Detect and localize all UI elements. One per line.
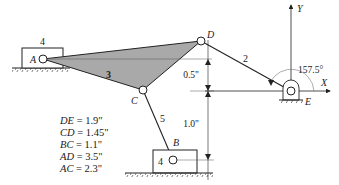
joint-A bbox=[39, 55, 47, 63]
rod-label: 5 bbox=[160, 113, 165, 124]
dimension-upper-label: 0.5" bbox=[183, 70, 199, 80]
bottom-slider-ground bbox=[125, 173, 213, 177]
crank-label: 2 bbox=[243, 53, 248, 64]
length-row: DE = 1.9" bbox=[60, 115, 108, 127]
joint-C bbox=[139, 86, 147, 94]
joint-label-A: A bbox=[29, 54, 37, 65]
dimension-lower-label: 1.0" bbox=[183, 119, 199, 129]
x-axis-label: X bbox=[320, 77, 328, 88]
mechanism-diagram: 4 3 2 5 4 0.5" 1.0" Y X 157.5° bbox=[0, 0, 339, 185]
length-row: AC = 2.3" bbox=[60, 163, 108, 175]
angle-arc-arrow bbox=[268, 80, 274, 86]
joint-D bbox=[197, 37, 205, 45]
coupler-link-3 bbox=[43, 41, 201, 90]
joint-label-C: C bbox=[131, 95, 138, 106]
joint-label-D: D bbox=[206, 29, 215, 40]
length-row: BC = 1.1" bbox=[60, 139, 108, 151]
link-lengths-legend: DE = 1.9" CD = 1.45" BC = 1.1" AD = 3.5"… bbox=[60, 115, 108, 175]
length-row: CD = 1.45" bbox=[60, 127, 108, 139]
y-axis-label: Y bbox=[297, 3, 304, 14]
joint-label-E: E bbox=[304, 96, 311, 107]
length-row: AD = 3.5" bbox=[60, 151, 108, 163]
joint-B bbox=[169, 156, 177, 164]
angle-label: 157.5° bbox=[298, 65, 323, 75]
joint-label-B: B bbox=[173, 137, 179, 148]
bottom-slider-label: 4 bbox=[158, 156, 163, 167]
top-slider-ground bbox=[12, 68, 70, 72]
coupler-label: 3 bbox=[106, 69, 111, 80]
crank-link-2 bbox=[201, 41, 291, 91]
joint-E bbox=[287, 87, 295, 95]
top-slider-label: 4 bbox=[40, 36, 45, 47]
